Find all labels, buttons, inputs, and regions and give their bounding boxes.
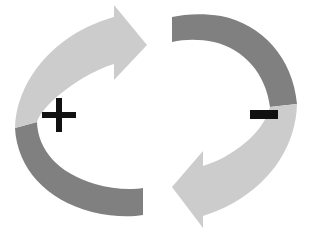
plus-horizontal-stroke	[42, 112, 76, 118]
counterclockwise-arrow-tail-band	[172, 14, 297, 107]
negative-sign-label: −	[248, 100, 284, 130]
feedback-loop-diagram: + −	[0, 0, 315, 232]
minus-horizontal-stroke	[250, 110, 278, 119]
clockwise-arrow-tail-band	[15, 122, 143, 216]
positive-sign-label: +	[42, 96, 82, 136]
